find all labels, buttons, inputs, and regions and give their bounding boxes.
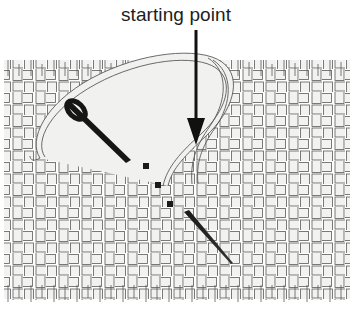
stitch-mark <box>155 182 161 188</box>
stitch-mark <box>143 163 149 169</box>
stitch-mark <box>167 201 173 207</box>
starting-point-diagram <box>0 0 352 322</box>
